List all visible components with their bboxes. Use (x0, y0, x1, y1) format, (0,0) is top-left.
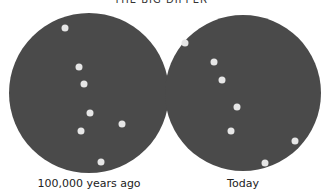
caption-past: 100,000 years ago (9, 177, 169, 190)
sky-diagram (0, 0, 322, 194)
star-icon (182, 40, 189, 47)
star-icon (262, 160, 269, 167)
star-icon (76, 64, 83, 71)
star-icon (292, 138, 299, 145)
star-icon (62, 25, 69, 32)
star-icon (228, 128, 235, 135)
star-icon (234, 104, 241, 111)
star-icon (119, 121, 126, 128)
caption-today: Today (193, 177, 293, 190)
star-icon (98, 159, 105, 166)
star-icon (87, 110, 94, 117)
star-icon (219, 77, 226, 84)
sky-circle-today (165, 15, 321, 171)
star-icon (81, 81, 88, 88)
sky-circle-past (9, 13, 169, 173)
star-icon (211, 59, 218, 66)
star-icon (78, 128, 85, 135)
